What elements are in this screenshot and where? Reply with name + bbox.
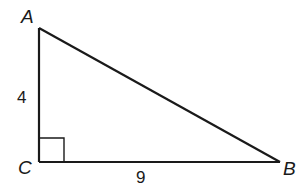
side-ab-hypotenuse [39, 28, 280, 162]
triangle-diagram: A C B 4 9 [0, 0, 305, 195]
right-angle-marker [39, 138, 64, 162]
side-label-cb: 9 [136, 168, 145, 187]
side-label-ac: 4 [17, 88, 26, 107]
vertex-label-c: C [18, 157, 32, 178]
vertex-label-b: B [283, 158, 296, 179]
vertex-label-a: A [20, 6, 34, 27]
triangle-edges [39, 28, 280, 162]
